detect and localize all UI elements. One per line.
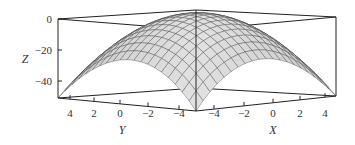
surface-plot: 0−20−40420−2−4−4−2024ZYX: [0, 0, 355, 145]
surface-mesh: [58, 13, 336, 111]
z-tick-label: 0: [47, 13, 53, 25]
x-tick-label: −2: [238, 107, 250, 119]
x-tick-label: 0: [270, 107, 276, 119]
x-tick-label: 2: [297, 107, 303, 119]
y-tick-label: −2: [142, 107, 154, 119]
y-tick-label: −4: [173, 107, 185, 119]
x-axis-label: X: [268, 123, 277, 137]
z-tick-label: −20: [35, 44, 53, 56]
z-tick-label: −40: [35, 75, 53, 87]
y-tick-label: 0: [117, 107, 123, 119]
y-axis-label: Y: [119, 123, 127, 137]
y-tick-label: 2: [91, 107, 97, 119]
x-tick-label: 4: [322, 107, 328, 119]
y-tick-label: 4: [67, 107, 73, 119]
x-tick-label: −4: [208, 107, 220, 119]
z-axis-label: Z: [22, 52, 29, 66]
